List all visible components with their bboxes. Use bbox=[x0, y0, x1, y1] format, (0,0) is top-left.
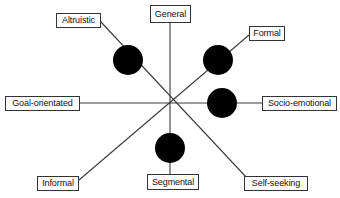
label-box-goal-orientated: Goal-orientated bbox=[5, 96, 80, 111]
radial-axis-diagram: GeneralAltruisticFormalGoal-orientatedSo… bbox=[0, 0, 340, 198]
label-box-segmental: Segmental bbox=[147, 174, 199, 190]
label-text-informal: Informal bbox=[42, 179, 74, 188]
label-text-formal: Formal bbox=[253, 29, 280, 38]
label-text-socio-emotional: Socio-emotional bbox=[268, 99, 331, 108]
label-box-formal: Formal bbox=[249, 26, 285, 41]
node-dot-altruistic-node bbox=[113, 45, 143, 75]
node-dot-socio-emotional-node bbox=[207, 88, 237, 118]
label-box-self-seeking: Self-seeking bbox=[244, 176, 308, 191]
node-dot-formal-node bbox=[203, 45, 233, 75]
label-box-informal: Informal bbox=[37, 176, 79, 191]
label-text-goal-orientated: Goal-orientated bbox=[12, 99, 73, 108]
node-dot-group bbox=[113, 45, 237, 163]
label-text-segmental: Segmental bbox=[152, 178, 194, 187]
node-dot-segmental-node bbox=[155, 133, 185, 163]
label-text-self-seeking: Self-seeking bbox=[252, 179, 300, 188]
label-box-altruistic: Altruistic bbox=[56, 13, 101, 28]
label-text-general: General bbox=[155, 10, 186, 19]
label-box-socio-emotional: Socio-emotional bbox=[262, 96, 337, 111]
label-text-altruistic: Altruistic bbox=[62, 16, 95, 25]
label-box-general: General bbox=[150, 5, 191, 23]
